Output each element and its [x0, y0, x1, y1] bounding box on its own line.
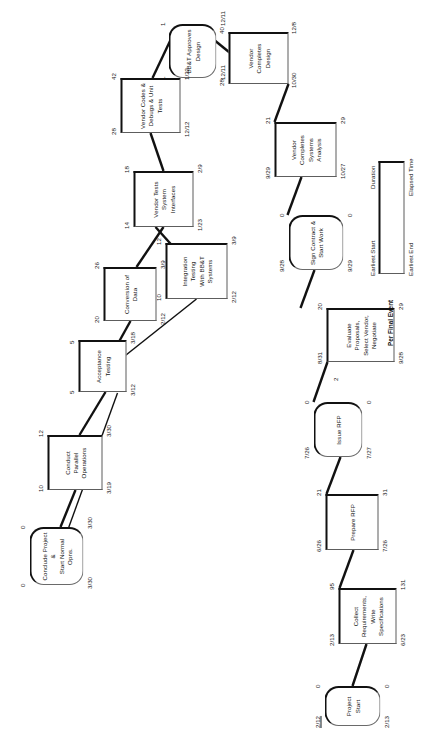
legend-elapsed-time: Elapsed Time	[407, 159, 413, 197]
diagram-sheet: Project Start 2/12 0 2/13 0 Collect Requ…	[0, 0, 429, 740]
legend-title: Per Final Event	[386, 300, 393, 346]
diagram-canvas: Project Start 2/12 0 2/13 0 Collect Requ…	[0, 0, 429, 740]
legend-earliest-start: Earliest Start	[369, 241, 375, 276]
legend-duration: Duration	[369, 166, 375, 189]
legend-earliest-end: Earliest End	[407, 243, 413, 276]
legend: Earliest Start Duration Earliest End Ela…	[0, 0, 429, 740]
legend-box	[378, 161, 404, 274]
